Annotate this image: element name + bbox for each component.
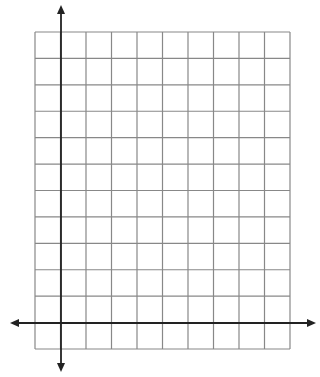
arrow-down-icon xyxy=(57,363,65,372)
grid-svg xyxy=(0,0,320,377)
arrow-left-icon xyxy=(10,319,19,327)
coordinate-grid-diagram xyxy=(0,0,320,377)
arrow-up-icon xyxy=(57,5,65,14)
grid-lines xyxy=(35,32,290,349)
arrow-right-icon xyxy=(307,319,316,327)
